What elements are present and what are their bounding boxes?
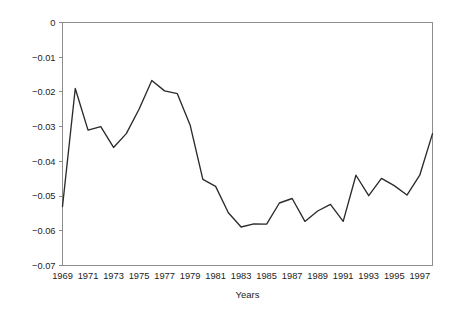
chart-container: 0−0.01−0.02−0.03−0.04−0.05−0.06−0.07 196…	[0, 0, 459, 316]
x-axis-tick-label: 1971	[78, 271, 99, 281]
x-axis-tick-labels: 1969197119731975197719791981198319851987…	[52, 271, 430, 281]
x-axis-tick-label: 1991	[333, 271, 354, 281]
y-axis-tick-labels: 0−0.01−0.02−0.03−0.04−0.05−0.06−0.07	[32, 18, 56, 271]
y-axis-tick-marks	[59, 23, 63, 266]
x-axis-tick-label: 1979	[180, 271, 201, 281]
data-series-line	[63, 80, 433, 227]
y-axis-tick-label: −0.01	[32, 53, 56, 63]
x-axis-title: Years	[236, 289, 260, 300]
x-axis-tick-label: 1995	[384, 271, 405, 281]
x-axis-tick-label: 1987	[282, 271, 303, 281]
x-axis-tick-label: 1975	[129, 271, 150, 281]
x-axis-tick-label: 1989	[307, 271, 328, 281]
x-axis-tick-label: 1985	[256, 271, 277, 281]
plot-frame	[63, 23, 433, 266]
y-axis-tick-label: −0.07	[32, 261, 56, 271]
y-axis-tick-label: −0.02	[32, 87, 56, 97]
x-axis-tick-label: 1983	[231, 271, 252, 281]
x-axis-tick-label: 1997	[409, 271, 430, 281]
x-axis-tick-label: 1981	[205, 271, 226, 281]
x-axis-tick-label: 1977	[154, 271, 175, 281]
y-axis-tick-label: −0.03	[32, 122, 56, 132]
x-axis-tick-label: 1969	[52, 271, 73, 281]
x-axis-tick-label: 1993	[358, 271, 379, 281]
y-axis-tick-label: −0.06	[32, 226, 56, 236]
y-axis-tick-label: −0.04	[32, 157, 56, 167]
y-axis-tick-label: 0	[50, 18, 55, 28]
y-axis-tick-label: −0.05	[32, 191, 56, 201]
axis-box	[63, 23, 433, 266]
x-axis-tick-label: 1973	[103, 271, 124, 281]
line-chart: 0−0.01−0.02−0.03−0.04−0.05−0.06−0.07 196…	[0, 0, 459, 316]
